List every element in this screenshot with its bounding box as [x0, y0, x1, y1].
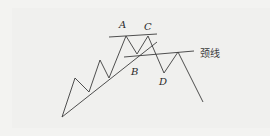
label-a: A [118, 19, 126, 30]
neckline-label: 颈线 [200, 47, 220, 59]
label-c: C [144, 21, 152, 32]
top-resistance-line [109, 34, 157, 37]
label-b: B [130, 66, 138, 77]
pattern-diagram: A C B D 颈线 [0, 0, 270, 136]
neckline [124, 51, 194, 57]
label-d: D [158, 76, 167, 87]
